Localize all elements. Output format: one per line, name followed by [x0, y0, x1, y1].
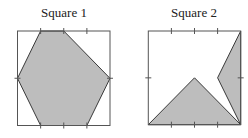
square-2-figure: [145, 28, 243, 128]
shaded-hexagon: [18, 31, 111, 126]
square-1-figure: [15, 28, 114, 129]
diagram-canvas: [0, 0, 248, 138]
